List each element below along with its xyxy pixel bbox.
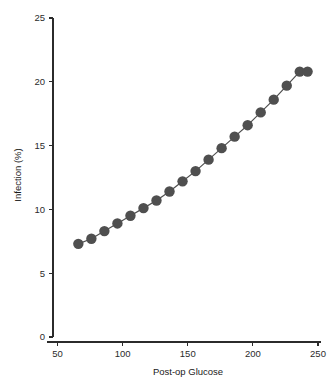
y-tick-label: 25 (34, 12, 45, 23)
data-point-marker (151, 195, 161, 205)
data-point-marker (229, 131, 239, 141)
data-point-marker (255, 107, 265, 117)
y-tick-label: 15 (34, 140, 45, 151)
x-axis-title: Post-op Glucose (153, 366, 223, 377)
data-point-marker (99, 226, 109, 236)
chart-container: 0510152025 50100150200250 Infection (%) … (0, 0, 332, 382)
x-tick-label: 100 (115, 348, 131, 359)
x-tick-label: 200 (245, 348, 261, 359)
data-point-marker (203, 154, 213, 164)
data-point-marker (190, 166, 200, 176)
y-tick-label: 5 (40, 268, 45, 279)
data-point-marker (164, 186, 174, 196)
x-tick-label: 50 (52, 348, 63, 359)
x-tick-label: 250 (310, 348, 326, 359)
data-point-marker (302, 66, 312, 76)
x-tick-label: 150 (180, 348, 196, 359)
infection-vs-glucose-line-chart: 0510152025 50100150200250 Infection (%) … (0, 0, 332, 382)
data-point-marker (216, 143, 226, 153)
y-tick-label: 20 (34, 76, 45, 87)
y-tick-label: 10 (34, 204, 45, 215)
data-point-marker (177, 176, 187, 186)
data-point-marker (282, 80, 292, 90)
y-tick-label: 0 (40, 331, 45, 342)
data-point-marker (86, 234, 96, 244)
data-point-marker (269, 94, 279, 104)
data-point-marker (112, 218, 122, 228)
data-point-marker (138, 203, 148, 213)
data-point-marker (73, 239, 83, 249)
data-point-marker (125, 211, 135, 221)
data-point-marker (242, 120, 252, 130)
y-axis-title: Infection (%) (12, 148, 23, 201)
